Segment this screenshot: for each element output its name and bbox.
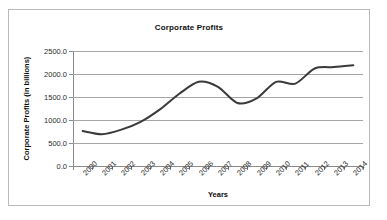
x-axis-title: Years — [73, 190, 363, 199]
y-axis-tick-label: 2500.0 — [44, 47, 67, 56]
y-axis-tick-label: 2000.0 — [44, 70, 67, 79]
plot-area: 0.0500.01000.01500.02000.02500.0 2000200… — [73, 51, 363, 166]
y-axis-title: Corporate Profits (in billions) — [21, 51, 33, 166]
y-axis-title-label: Corporate Profits (in billions) — [23, 57, 32, 161]
series-line-layer — [73, 51, 363, 166]
y-axis-tick-label: 1500.0 — [44, 93, 67, 102]
chart-frame: Corporate Profits Corporate Profits (in … — [8, 9, 370, 206]
y-axis-tick-label: 0.0 — [57, 162, 67, 171]
y-axis-tick-label: 1000.0 — [44, 116, 67, 125]
y-axis-tick-label: 500.0 — [48, 139, 67, 148]
x-axis-tick — [73, 166, 74, 170]
series-line — [83, 65, 354, 134]
chart-title: Corporate Profits — [9, 23, 369, 32]
